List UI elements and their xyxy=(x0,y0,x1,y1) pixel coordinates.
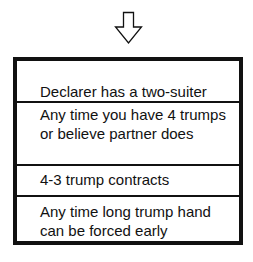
list-box: Declarer has a two-suiter Any time you h… xyxy=(13,57,243,245)
divider xyxy=(17,101,239,103)
list-item-text: Any time long trump hand can be forced e… xyxy=(40,203,211,239)
list-item-two-suiter: Declarer has a two-suiter xyxy=(17,82,239,101)
list-item-text: Any time you have 4 trumps or believe pa… xyxy=(40,106,226,142)
list-item-force-long-trump: Any time long trump hand can be forced e… xyxy=(17,202,239,240)
divider xyxy=(17,195,239,197)
list-item-text: 4-3 trump contracts xyxy=(40,171,169,188)
list-item-text: Declarer has a two-suiter xyxy=(40,83,207,100)
list-item-four-trumps: Any time you have 4 trumps or believe pa… xyxy=(17,105,239,143)
down-arrow-icon xyxy=(114,11,144,45)
list-item-four-three-contracts: 4-3 trump contracts xyxy=(17,170,239,189)
divider xyxy=(17,164,239,166)
